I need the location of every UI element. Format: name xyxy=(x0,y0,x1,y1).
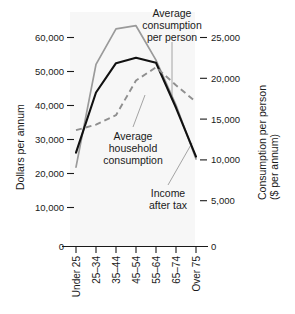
annotation-income-after-tax-line2: after tax xyxy=(149,199,188,211)
y2-axis-tick-label: 15,000 xyxy=(211,114,240,125)
y2-axis-tick-label: 20,000 xyxy=(211,73,240,84)
line-chart: 60,000 50,000 40,000 30,000 20,000 10,00… xyxy=(0,0,295,314)
x-axis-category-label: Over 75 xyxy=(191,256,202,292)
y2-axis-tick-label: 10,000 xyxy=(211,154,240,165)
y-axis-tick-label: 20,000 xyxy=(35,168,64,179)
x-axis-category-label: Under 25 xyxy=(71,256,82,298)
x-axis-category-label: 45–54 xyxy=(131,256,142,284)
y2-axis-tick-label: 25,000 xyxy=(211,32,240,43)
annotation-consumption-per-person-line3: per person xyxy=(147,31,197,43)
annotation-household-consumption-line2: household xyxy=(109,142,158,154)
y2-axis-title-line1: Consumption per person xyxy=(256,85,268,200)
x-axis-category-label: 55–64 xyxy=(151,256,162,284)
annotation-consumption-per-person-line2: consumption xyxy=(142,19,202,31)
annotation-consumption-per-person-line1: Average xyxy=(153,7,192,19)
y-axis-tick-label: 60,000 xyxy=(35,32,64,43)
y-axis-tick-label: 30,000 xyxy=(35,134,64,145)
y2-axis-tick-label: 0 xyxy=(211,241,216,252)
y2-axis-tick-label: 5,000 xyxy=(211,195,235,206)
annotation-household-consumption-line1: Average xyxy=(114,130,153,142)
y-axis-tick-label: 10,000 xyxy=(35,202,64,213)
annotation-income-after-tax-line1: Income xyxy=(151,187,186,199)
x-axis-category-label: 65–74 xyxy=(171,256,182,284)
y-axis-tick-label: 40,000 xyxy=(35,100,64,111)
x-axis-category-label: 35–44 xyxy=(111,256,122,284)
chart-container: 60,000 50,000 40,000 30,000 20,000 10,00… xyxy=(0,0,295,314)
y-axis-title: Dollars per annum xyxy=(14,104,26,190)
y2-axis-title-line2: ($ per annum) xyxy=(268,134,280,200)
y-axis-tick-label: 50,000 xyxy=(35,66,64,77)
annotation-household-consumption-line3: consumption xyxy=(103,154,163,166)
x-axis-category-label: 25–34 xyxy=(91,256,102,284)
